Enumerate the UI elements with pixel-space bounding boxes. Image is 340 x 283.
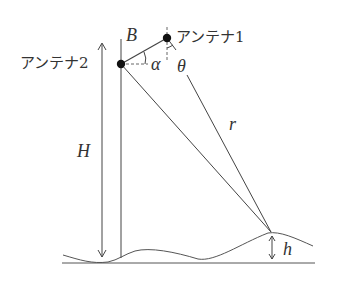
theta-label: θ xyxy=(177,57,186,75)
terrain-curve xyxy=(63,233,313,263)
alpha-label: α xyxy=(151,55,160,73)
range-label: r xyxy=(229,115,236,133)
baseline-label: B xyxy=(126,26,137,44)
antenna2-dot xyxy=(117,60,125,68)
height-h-label: h xyxy=(283,240,292,258)
ray-antenna1-r xyxy=(187,75,271,232)
alpha-arc xyxy=(144,52,146,64)
antenna2-label: アンテナ2 xyxy=(20,56,89,71)
ray-antenna2 xyxy=(121,64,271,232)
antenna1-label: アンテナ1 xyxy=(176,30,245,45)
height-H-label: H xyxy=(77,142,90,160)
antenna1-dot xyxy=(163,34,171,42)
